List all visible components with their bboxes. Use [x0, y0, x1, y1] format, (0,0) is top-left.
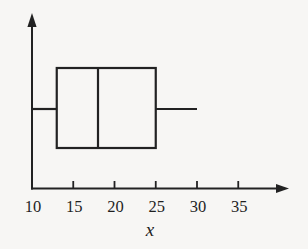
- x-tick-label-20: 20: [107, 197, 124, 216]
- x-axis-label: x: [145, 219, 155, 240]
- x-axis-tick-labels: 101520253035: [25, 197, 248, 216]
- boxplot-page: 101520253035 x: [0, 0, 308, 249]
- axes: [27, 13, 289, 193]
- x-tick-label-30: 30: [190, 197, 207, 216]
- x-tick-label-10: 10: [25, 197, 42, 216]
- box-and-whisker: [32, 68, 197, 148]
- x-tick-label-15: 15: [66, 197, 83, 216]
- boxplot-figure: 101520253035 x: [0, 0, 308, 249]
- x-tick-label-25: 25: [149, 197, 166, 216]
- y-axis-arrowhead-icon: [27, 13, 36, 27]
- x-tick-label-35: 35: [231, 197, 248, 216]
- x-axis-arrowhead-icon: [276, 184, 289, 193]
- iqr-box: [57, 68, 156, 148]
